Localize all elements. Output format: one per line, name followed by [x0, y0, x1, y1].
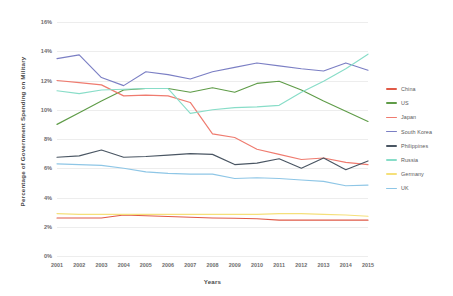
legend-item-uk[interactable]: UK [386, 181, 452, 195]
y-tick-label: 8% [44, 136, 52, 142]
series-line-germany [57, 214, 368, 217]
legend-label: Russia [401, 157, 418, 163]
gridline-0% [57, 256, 368, 257]
x-tick-label: 2015 [362, 262, 374, 268]
y-tick-label: 16% [41, 19, 52, 25]
legend-item-us[interactable]: US [386, 96, 452, 110]
x-tick-label: 2001 [51, 262, 63, 268]
legend-label: US [401, 100, 409, 106]
series-line-us [57, 81, 368, 124]
y-axis-title: Percentage of Government Spending on Mil… [19, 32, 26, 232]
legend-item-china[interactable]: China [386, 82, 452, 96]
y-tick-label: 6% [44, 165, 52, 171]
x-tick-label: 2013 [318, 262, 330, 268]
legend-item-south-korea[interactable]: South Korea [386, 125, 452, 139]
series-line-south-korea [57, 55, 368, 86]
series-line-china [57, 215, 368, 220]
y-tick-label: 12% [41, 78, 52, 84]
y-tick-label: 0% [44, 253, 52, 259]
x-axis-title: Years [57, 278, 368, 285]
legend-label: Japan [401, 114, 416, 120]
x-tick-label: 2004 [118, 262, 130, 268]
x-tick-label: 2014 [340, 262, 352, 268]
legend-label: Philippines [401, 143, 428, 149]
legend-label: South Korea [401, 129, 432, 135]
x-tick-label: 2012 [295, 262, 307, 268]
x-tick-label: 2006 [162, 262, 174, 268]
legend-item-germany[interactable]: Germany [386, 167, 452, 181]
x-tick-label: 2010 [251, 262, 263, 268]
series-line-philippines [57, 150, 368, 170]
legend-label: China [401, 86, 416, 92]
legend-color-swatch [386, 145, 397, 147]
series-line-russia [57, 54, 368, 113]
x-tick-label: 2009 [229, 262, 241, 268]
x-tick-label: 2011 [273, 262, 285, 268]
legend-color-swatch [386, 102, 397, 104]
legend-item-philippines[interactable]: Philippines [386, 139, 452, 153]
y-tick-label: 4% [44, 195, 52, 201]
x-tick-label: 2003 [95, 262, 107, 268]
plot-area: 0%2%4%6%8%10%12%14%16% 20012002200320042… [57, 22, 368, 256]
x-tick-label: 2007 [184, 262, 196, 268]
y-tick-label: 10% [41, 107, 52, 113]
series-lines [57, 22, 368, 256]
y-tick-label: 2% [44, 224, 52, 230]
series-line-japan [57, 81, 368, 165]
chart-legend: ChinaUSJapanSouth KoreaPhilippinesRussia… [386, 82, 452, 196]
legend-label: UK [401, 185, 409, 191]
x-tick-label: 2005 [140, 262, 152, 268]
legend-color-swatch [386, 188, 397, 190]
legend-label: Germany [401, 171, 424, 177]
series-line-uk [57, 164, 368, 186]
x-tick-label: 2002 [73, 262, 85, 268]
legend-color-swatch [386, 117, 397, 119]
legend-item-russia[interactable]: Russia [386, 153, 452, 167]
y-tick-label: 14% [41, 48, 52, 54]
legend-color-swatch [386, 131, 397, 133]
legend-color-swatch [386, 173, 397, 175]
legend-item-japan[interactable]: Japan [386, 110, 452, 124]
legend-color-swatch [386, 88, 397, 90]
line-chart: Percentage of Government Spending on Mil… [0, 0, 453, 296]
legend-color-swatch [386, 159, 397, 161]
x-tick-label: 2008 [207, 262, 219, 268]
